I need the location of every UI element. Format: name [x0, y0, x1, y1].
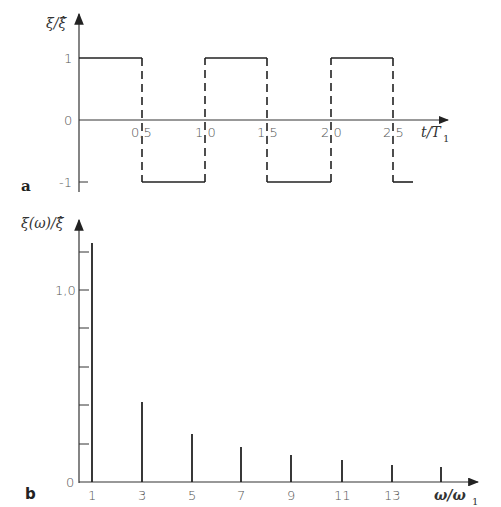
a-xtick-1.0: 1,0: [195, 125, 216, 140]
b-ytick-1.0: 1,0: [55, 283, 76, 298]
b-xtick-5: 5: [188, 488, 196, 503]
b-y-axis-label: ξ(ω)/ξ̂: [21, 215, 65, 231]
b-xtick-9: 9: [287, 488, 295, 503]
figure: ξ/ξ̂ 1 0 -1 0,5 1,0 1,5 2,0 2,5 t/T 1 a: [0, 0, 501, 507]
b-xtick-13: 13: [384, 488, 401, 503]
panel-a-label: a: [21, 177, 31, 195]
a-ytick-0: 0: [64, 113, 72, 128]
a-xtick-2.5: 2,5: [383, 125, 404, 140]
panel-a: ξ/ξ̂ 1 0 -1 0,5 1,0 1,5 2,0 2,5 t/T 1 a: [21, 14, 449, 195]
panel-b: ξ(ω)/ξ̂ 1,0 0 1 3 5 7 9 11 13 ω/ω 1 b: [21, 215, 478, 507]
a-x-axis-label: t/T: [421, 124, 442, 140]
a-xtick-1.5: 1,5: [257, 125, 278, 140]
a-y-axis-label: ξ/ξ̂: [46, 15, 67, 31]
b-xtick-3: 3: [138, 488, 146, 503]
a-xtick-2.0: 2,0: [321, 125, 342, 140]
b-xtick-1: 1: [88, 488, 96, 503]
a-ytick-1: 1: [64, 51, 72, 66]
b-ytick-0: 0: [66, 475, 74, 490]
spectrum-bars: [92, 243, 441, 482]
a-ytick-minus1: -1: [59, 175, 72, 190]
b-xtick-11: 11: [334, 488, 351, 503]
a-xtick-0.5: 0,5: [131, 125, 152, 140]
b-x-axis-label-sub: 1: [472, 496, 478, 507]
a-x-axis-label-sub: 1: [443, 133, 449, 144]
b-xtick-7: 7: [237, 488, 245, 503]
b-x-axis-label: ω/ω: [434, 487, 466, 503]
panel-b-label: b: [25, 485, 36, 503]
b-y-ticks: [79, 252, 89, 444]
